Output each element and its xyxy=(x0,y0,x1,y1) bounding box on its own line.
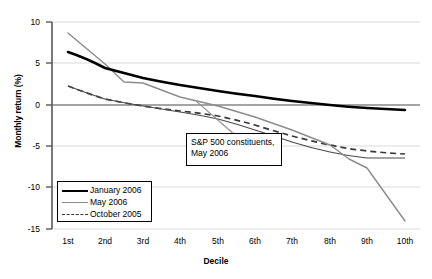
y-tick-label-neg5: -5 xyxy=(8,142,40,151)
y-tick-label-0: 0 xyxy=(8,101,40,110)
x-tick-label-5th: 5th xyxy=(198,237,238,246)
y-tick-label-neg10: -10 xyxy=(8,183,40,192)
x-tick-label-2nd: 2nd xyxy=(85,237,125,246)
x-tick-label-4th: 4th xyxy=(160,237,200,246)
x-tick-label-8th: 8th xyxy=(310,237,350,246)
annotation-line-2: May 2006 xyxy=(191,148,281,159)
legend-label-january-2006: January 2006 xyxy=(90,186,142,195)
legend-label-october-2005: October 2005 xyxy=(90,210,142,219)
x-tick-label-10th: 10th xyxy=(385,237,425,246)
legend-label-may-2006: May 2006 xyxy=(90,198,127,207)
x-axis-title: Decile xyxy=(0,256,432,266)
x-tick-label-1st: 1st xyxy=(48,237,88,246)
legend-swatch-may-2006 xyxy=(62,197,88,207)
annotation-callout-sp500: S&P 500 constituents, May 2006 xyxy=(186,133,282,166)
annotation-line-1: S&P 500 constituents, xyxy=(191,137,281,148)
chart-legend: January 2006 May 2006 October 2005 xyxy=(57,181,152,222)
x-tick-label-9th: 9th xyxy=(347,237,387,246)
legend-swatch-january-2006 xyxy=(62,185,88,195)
legend-item-january-2006: January 2006 xyxy=(58,184,151,196)
x-tick-label-6th: 6th xyxy=(235,237,275,246)
chart-container: Monthly return (%) 10 5 0 -5 -10 -15 1st… xyxy=(0,0,432,279)
legend-item-october-2005: October 2005 xyxy=(58,208,151,220)
x-tick-label-7th: 7th xyxy=(272,237,312,246)
y-tick-label-10: 10 xyxy=(8,18,40,27)
y-tick-label-5: 5 xyxy=(8,59,40,68)
x-tick-label-3rd: 3rd xyxy=(123,237,163,246)
y-axis-ticks xyxy=(46,22,52,229)
legend-swatch-october-2005 xyxy=(62,209,88,219)
legend-item-may-2006: May 2006 xyxy=(58,196,151,208)
y-tick-label-neg15: -15 xyxy=(8,225,40,234)
